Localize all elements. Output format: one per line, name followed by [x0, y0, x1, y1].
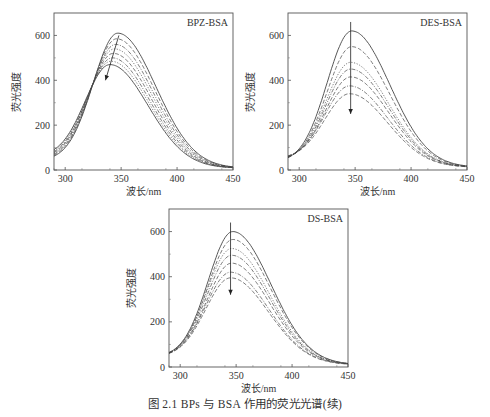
series-line [169, 232, 348, 364]
x-tick-label: 450 [341, 370, 356, 381]
chart-ds-bsa: 3003504004500200400600DS-BSA波长/nm荧光强度 [0, 0, 490, 395]
plot-frame [169, 209, 348, 367]
chart-title: DS-BSA [307, 213, 343, 224]
arrow-head-icon [228, 290, 232, 295]
figure-caption: 图 2.1 BPs 与 BSA 作用的荧光光谱(续) [0, 395, 490, 411]
series-line [169, 255, 348, 363]
x-axis-label: 波长/nm [241, 382, 277, 394]
series-line [169, 263, 348, 364]
x-tick-label: 400 [285, 370, 300, 381]
y-axis-label: 荧光强度 [125, 268, 137, 308]
y-tick-label: 0 [160, 362, 165, 373]
y-tick-label: 200 [150, 316, 165, 327]
series-line [169, 249, 348, 364]
x-tick-label: 300 [173, 370, 188, 381]
y-tick-label: 400 [150, 271, 165, 282]
x-tick-label: 350 [229, 370, 244, 381]
series-group [169, 232, 348, 364]
y-tick-label: 600 [150, 226, 165, 237]
